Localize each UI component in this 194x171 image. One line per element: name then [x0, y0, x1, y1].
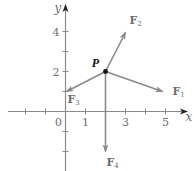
y-tick-label: 4: [53, 26, 60, 39]
axes: [8, 5, 187, 171]
point-label: P: [92, 56, 100, 70]
labels: 013524xyF1F2F3F4P: [53, 1, 193, 170]
x-tick-label: 1: [82, 116, 89, 129]
vector-subscript: 2: [137, 20, 141, 28]
point-P: [103, 69, 108, 74]
vectors: [67, 33, 163, 152]
vector-label-F2: F2: [130, 14, 142, 28]
vector-F3: [67, 72, 106, 92]
x-tick-label: 3: [122, 116, 129, 129]
vector-F2: [106, 33, 126, 72]
force-diagram: 013524xyF1F2F3F4P: [0, 0, 194, 171]
vector-subscript: 3: [75, 99, 79, 107]
x-tick-label: 0: [55, 116, 62, 129]
vector-F1: [106, 72, 163, 92]
x-axis-label: x: [186, 110, 193, 124]
y-tick-label: 2: [53, 66, 60, 79]
vector-subscript: 4: [114, 162, 119, 170]
y-axis-label: y: [54, 1, 62, 15]
vector-label-F4: F4: [107, 156, 120, 170]
vector-label-F3: F3: [68, 93, 80, 107]
vector-label-F1: F1: [173, 85, 185, 99]
vector-subscript: 1: [180, 91, 184, 99]
x-tick-label: 5: [162, 116, 169, 129]
